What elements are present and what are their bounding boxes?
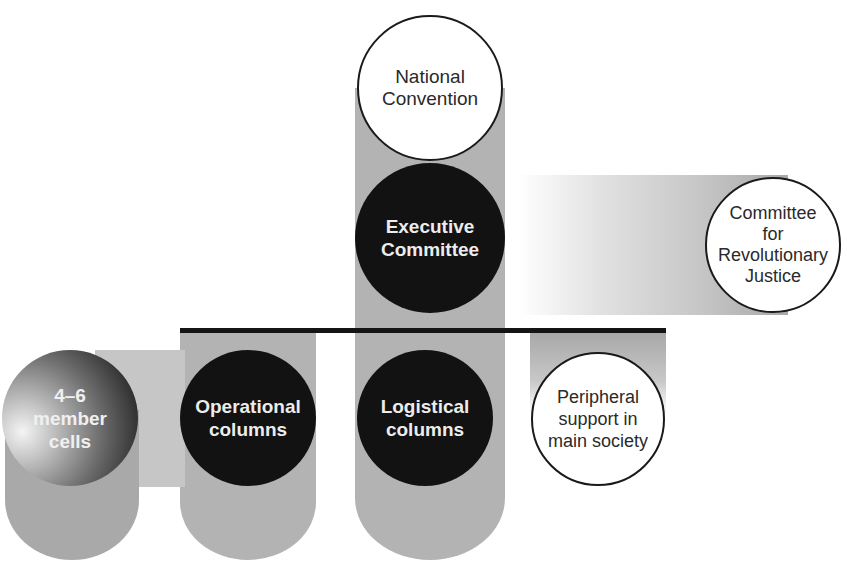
node-label: Convention bbox=[382, 88, 478, 110]
node-member-cells: 4–6 member cells bbox=[2, 350, 138, 486]
node-label: Justice bbox=[745, 266, 801, 287]
node-peripheral-support: Peripheral support in main society bbox=[531, 352, 665, 486]
node-label: Revolutionary bbox=[718, 245, 828, 266]
node-label: Operational bbox=[195, 395, 301, 418]
node-executive-committee: Executive Committee bbox=[355, 163, 505, 313]
node-operational-columns: Operational columns bbox=[180, 350, 316, 486]
node-label: columns bbox=[209, 418, 287, 441]
node-label: Peripheral bbox=[557, 386, 639, 408]
node-label: Committee bbox=[729, 203, 816, 224]
node-label: Logistical bbox=[381, 395, 470, 418]
node-label: main society bbox=[548, 430, 648, 452]
node-label: for bbox=[762, 224, 783, 245]
node-label: 4–6 bbox=[54, 384, 86, 407]
node-label: support in bbox=[558, 408, 637, 430]
node-label: Committee bbox=[381, 238, 479, 261]
node-label: member bbox=[33, 407, 107, 430]
node-label: National bbox=[395, 66, 465, 88]
node-label: Executive bbox=[386, 215, 475, 238]
node-national-convention: National Convention bbox=[357, 15, 503, 161]
hierarchy-bar bbox=[180, 328, 666, 333]
node-label: cells bbox=[49, 430, 91, 453]
node-revolutionary-justice: Committee for Revolutionary Justice bbox=[705, 177, 841, 313]
node-label: columns bbox=[386, 418, 464, 441]
node-logistical-columns: Logistical columns bbox=[357, 350, 493, 486]
